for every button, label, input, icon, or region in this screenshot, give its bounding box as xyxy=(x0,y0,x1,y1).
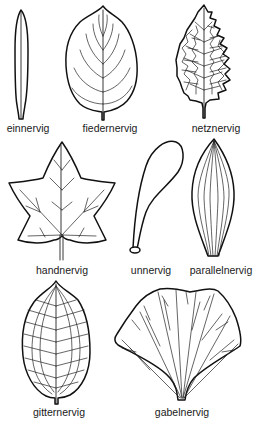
leaf-netznervig xyxy=(176,5,230,118)
leaf-einnervig xyxy=(15,10,28,119)
label-parallelnervig: parallelnervig xyxy=(190,264,252,276)
leaf-gitternervig xyxy=(22,281,90,404)
label-einnervig: einnervig xyxy=(7,122,50,134)
label-unnervig: unnervig xyxy=(131,264,171,276)
label-gabelnervig: gabelnervig xyxy=(155,406,209,418)
leaf-gabelnervig xyxy=(115,288,241,400)
leaf-diagram xyxy=(0,0,257,425)
leaf-fiedernervig xyxy=(66,6,137,120)
label-handnervig: handnervig xyxy=(36,264,88,276)
leaf-handnervig xyxy=(9,142,115,260)
leaf-unnervig xyxy=(130,141,183,253)
label-fiedernervig: fiedernervig xyxy=(83,122,138,134)
leaf-parallelnervig xyxy=(192,139,234,256)
label-gitternervig: gitternervig xyxy=(33,406,85,418)
label-netznervig: netznervig xyxy=(192,122,240,134)
